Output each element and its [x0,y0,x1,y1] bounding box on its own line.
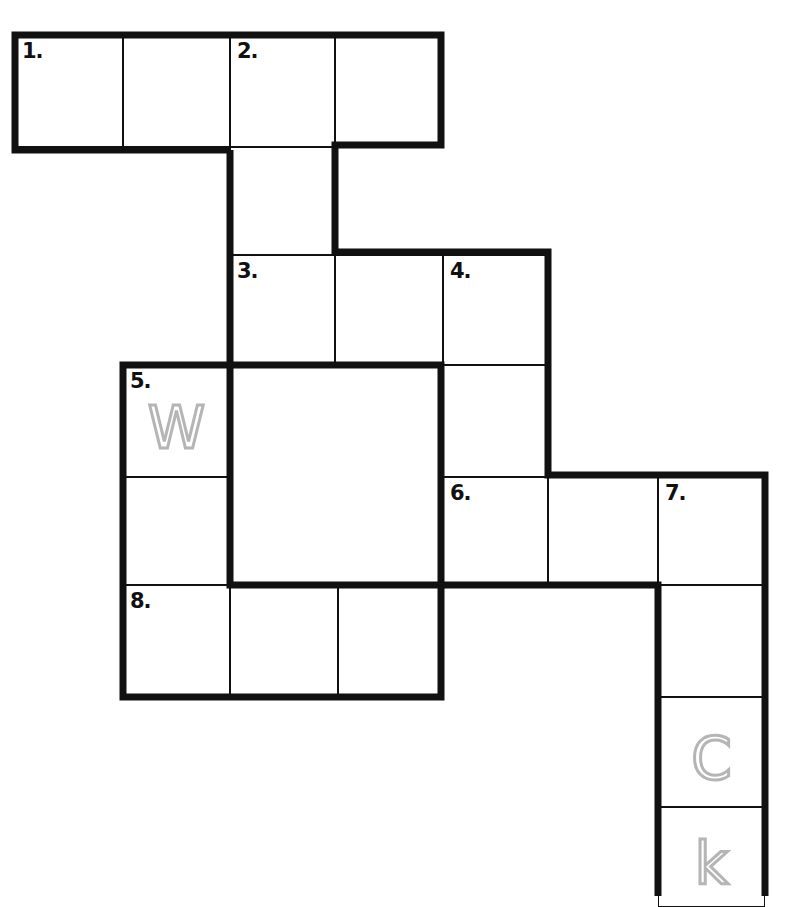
crossword-cell[interactable]: k [658,807,765,907]
crossword-cell[interactable] [230,147,335,255]
clue-number: 7. [665,481,686,505]
clue-number: 4. [450,259,471,283]
crossword-cell[interactable]: 6. [443,477,548,585]
dotted-hint-letter: k [659,835,764,893]
clue-number: 2. [237,39,258,63]
crossword-cell[interactable] [123,477,230,585]
crossword-cell[interactable]: 3. [230,255,335,365]
clue-number: 3. [237,259,258,283]
crossword-cell[interactable] [658,585,765,697]
crossword-cell[interactable]: C [658,697,765,807]
dotted-hint-letter: C [659,730,764,788]
clue-number: 6. [450,481,471,505]
crossword-cell[interactable]: 2. [230,35,335,147]
dotted-hint-letter: W [124,399,229,457]
crossword-cell[interactable]: 7. [658,477,765,585]
crossword-cell[interactable]: 4. [443,255,548,365]
clue-number: 5. [130,369,151,393]
crossword-cell[interactable]: 8. [123,585,230,697]
crossword-cell[interactable]: 1. [15,35,123,147]
clue-number: 1. [22,39,43,63]
crossword-cell[interactable] [335,35,441,147]
crossword-cell[interactable] [123,35,230,147]
crossword-cell[interactable] [230,585,338,697]
clue-number: 8. [130,589,151,613]
crossword-cell[interactable]: 5.W [123,365,230,477]
crossword-cell[interactable] [335,255,443,365]
crossword-cell[interactable] [338,585,441,697]
crossword-cell[interactable] [548,477,658,585]
crossword-cell[interactable] [443,365,548,477]
